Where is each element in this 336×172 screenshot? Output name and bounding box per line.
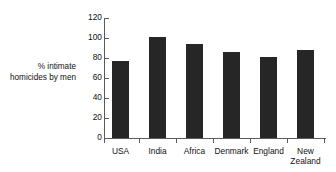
x-tick xyxy=(250,139,251,143)
y-tick-label: 60 xyxy=(93,72,102,83)
y-tick: 120 xyxy=(105,18,109,19)
y-tick: 20 xyxy=(105,118,109,119)
y-tick-label: 80 xyxy=(93,52,102,63)
y-tick-label: 100 xyxy=(88,32,102,43)
y-tick-label: 40 xyxy=(93,92,102,103)
plot-area: 020406080100120 xyxy=(104,18,326,138)
x-tick xyxy=(104,139,105,143)
bar-new-zealand xyxy=(297,50,314,138)
y-axis-label-line-1: % intimate xyxy=(4,61,76,72)
y-tick-label: 120 xyxy=(88,12,102,23)
bar-denmark xyxy=(223,52,240,138)
y-tick: 100 xyxy=(105,38,109,39)
y-tick: 0 xyxy=(105,138,109,139)
x-axis-label-new-zealand: NewZealand xyxy=(282,146,330,166)
y-tick-label: 0 xyxy=(97,132,102,143)
x-axis-label-line: Zealand xyxy=(282,156,330,166)
bar-africa xyxy=(186,44,203,138)
x-tick xyxy=(139,139,140,143)
bar-chart-figure: % intimate homicides by men 020406080100… xyxy=(0,0,336,172)
y-tick: 40 xyxy=(105,98,109,99)
bar-usa xyxy=(112,61,129,138)
y-tick-label: 20 xyxy=(93,112,102,123)
x-tick xyxy=(176,139,177,143)
bar-england xyxy=(260,57,277,138)
x-tick xyxy=(324,139,325,143)
bar-india xyxy=(149,37,166,138)
y-axis-label: % intimate homicides by men xyxy=(4,61,76,83)
x-axis-label-line: New xyxy=(282,146,330,156)
y-tick: 60 xyxy=(105,78,109,79)
y-axis-label-line-2: homicides by men xyxy=(4,72,76,83)
y-tick: 80 xyxy=(105,58,109,59)
x-axis-line xyxy=(104,138,326,139)
x-tick xyxy=(213,139,214,143)
x-tick xyxy=(287,139,288,143)
